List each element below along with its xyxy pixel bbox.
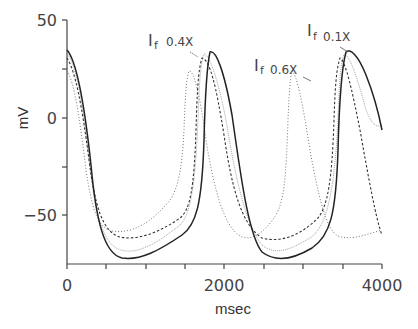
annotation-if-0-1x: I f 0.1X [307, 21, 350, 52]
annotation-if-0-6x: I f 0.6X [254, 56, 311, 81]
y-axis-label: mV [14, 107, 31, 130]
action-potential-chart: 50 0 −50 0 2000 4000 msec mV I f 0.4X I … [0, 0, 418, 329]
svg-text:0.1X: 0.1X [323, 30, 350, 44]
svg-text:I: I [148, 31, 153, 50]
svg-text:0.4X: 0.4X [166, 35, 193, 49]
x-tick-2000: 2000 [204, 276, 245, 295]
y-tick-50: 50 [37, 11, 57, 30]
svg-text:f: f [154, 39, 159, 52]
svg-text:f: f [313, 30, 318, 43]
x-tick-0: 0 [62, 276, 72, 295]
svg-text:I: I [307, 21, 312, 40]
x-axis-label: msec [215, 300, 251, 317]
traces [67, 50, 382, 258]
annotation-if-0-4x: I f 0.4X [148, 31, 198, 57]
svg-text:f: f [260, 64, 265, 77]
svg-text:0.6X: 0.6X [270, 63, 297, 77]
y-tick-0: 0 [47, 109, 57, 128]
svg-text:I: I [254, 56, 259, 75]
x-tick-4000: 4000 [362, 276, 403, 295]
y-tick-minus50: −50 [23, 206, 57, 225]
trace-if-0-6x [67, 71, 382, 238]
trace-control [67, 50, 382, 258]
trace-if-0-4x [67, 58, 382, 240]
